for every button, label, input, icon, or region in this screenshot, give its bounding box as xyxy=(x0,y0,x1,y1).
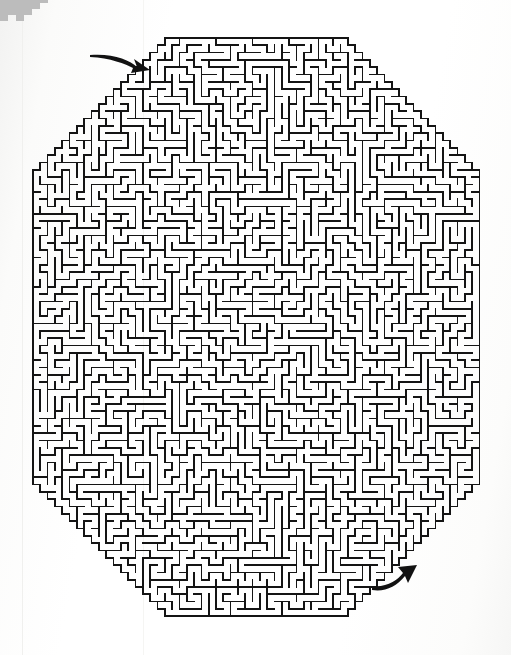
maze-drawing xyxy=(0,0,511,655)
maze-page xyxy=(0,0,511,655)
maze-wall-group xyxy=(33,38,480,616)
maze-walls-path xyxy=(33,38,480,616)
